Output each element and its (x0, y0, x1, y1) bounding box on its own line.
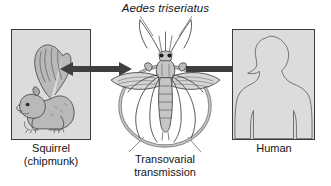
panel-human (232, 29, 315, 140)
caption-human-line1: Human (228, 142, 320, 155)
caption-transovarial: Transovarial transmission (104, 153, 226, 178)
caption-human: Human (228, 142, 320, 155)
caption-transovarial-line1: Transovarial (104, 153, 226, 166)
diagram-canvas: Aedes triseriatus (0, 0, 331, 186)
human-silhouette-illustration (233, 30, 314, 139)
caption-squirrel-line2: (chipmunk) (0, 155, 102, 168)
species-title: Aedes triseriatus (0, 2, 331, 14)
squirrel-illustration (12, 30, 90, 139)
caption-squirrel-line1: Squirrel (0, 142, 102, 155)
caption-squirrel: Squirrel (chipmunk) (0, 142, 102, 167)
mosquito-illustration (98, 14, 233, 154)
caption-transovarial-line2: transmission (104, 166, 226, 179)
panel-squirrel (11, 29, 91, 140)
